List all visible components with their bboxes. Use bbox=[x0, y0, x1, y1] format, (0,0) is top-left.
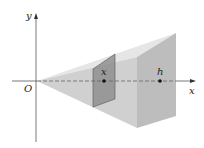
y-axis-label: y bbox=[25, 10, 32, 21]
origin-label: O bbox=[24, 83, 32, 94]
x-axis-label: x bbox=[189, 85, 195, 96]
base-point bbox=[158, 79, 162, 83]
x-axis-arrow-icon bbox=[190, 79, 196, 83]
section-label: x bbox=[101, 66, 107, 77]
section-point bbox=[102, 79, 106, 83]
base-label: h bbox=[157, 66, 163, 77]
y-axis-arrow-icon bbox=[34, 13, 38, 19]
pyramid-diagram: y x O x h bbox=[0, 0, 204, 148]
